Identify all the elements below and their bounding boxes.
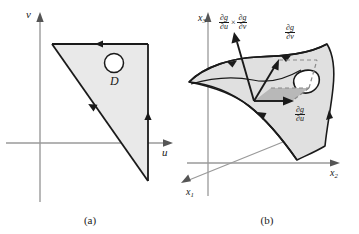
x2-axis-arrowhead: [330, 160, 340, 167]
axis-label-x3-sub: 3: [202, 17, 205, 24]
label-cross-product-frac2: ∂g ∂v: [237, 14, 247, 32]
panel-b-drawing: [175, 0, 359, 234]
axis-label-v: v: [26, 8, 31, 20]
axis-label-x2: x2: [330, 167, 338, 179]
region-d: [52, 41, 152, 181]
region-label-d: D: [110, 74, 119, 89]
x1-axis-arrowhead: [181, 175, 191, 184]
panel-a: v u D: [0, 0, 180, 234]
label-cross-product: ∂g ∂u × ∂g ∂v: [219, 14, 247, 32]
figure-root: v u D: [0, 0, 359, 234]
cross-operator-icon: ×: [229, 19, 238, 27]
axis-label-x3: x3: [198, 12, 206, 24]
surface-fill: [189, 44, 334, 160]
panel-a-drawing: [0, 0, 180, 234]
panel-b: x3 x1 x2 ∂g ∂u × ∂g ∂v ∂g ∂v: [175, 0, 359, 234]
label-partial-u-den: ∂u: [295, 115, 305, 123]
label-partial-v: ∂g ∂v: [285, 24, 295, 42]
caption-b: (b): [175, 214, 359, 226]
label-partial-v-den: ∂v: [285, 33, 295, 41]
caption-a: (a): [0, 214, 180, 226]
label-cross-product-den2: ∂v: [237, 23, 247, 31]
label-partial-u-frac: ∂g ∂u: [295, 106, 305, 124]
label-cross-product-den1: ∂u: [219, 23, 229, 31]
label-partial-v-frac: ∂g ∂v: [285, 24, 295, 42]
cross-product-vector-head: [232, 32, 241, 44]
label-cross-product-frac1: ∂g ∂u: [219, 14, 229, 32]
label-partial-u: ∂g ∂u: [295, 106, 305, 124]
axis-label-u: u: [162, 146, 168, 158]
axis-label-x1-sub: 1: [190, 191, 193, 198]
axis-label-x2-sub: 2: [334, 172, 337, 179]
region-d-hole: [105, 54, 124, 73]
axis-label-x1: x1: [186, 186, 194, 198]
v-axis-arrowhead: [36, 12, 43, 22]
surface: [189, 44, 334, 160]
